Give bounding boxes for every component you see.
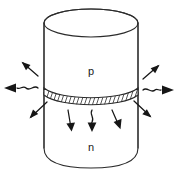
arrow-right-middle: [143, 86, 174, 95]
n-region-label: n: [88, 141, 94, 153]
p-region-label: p: [88, 65, 94, 77]
arrow-left-middle: [4, 84, 38, 93]
arrow-right-upper: [143, 65, 160, 79]
figure-root: p n: [0, 0, 177, 176]
pn-junction-diagram: p n: [0, 0, 177, 176]
p-region-solid: [44, 9, 138, 100]
arrow-left-upper: [22, 62, 39, 76]
